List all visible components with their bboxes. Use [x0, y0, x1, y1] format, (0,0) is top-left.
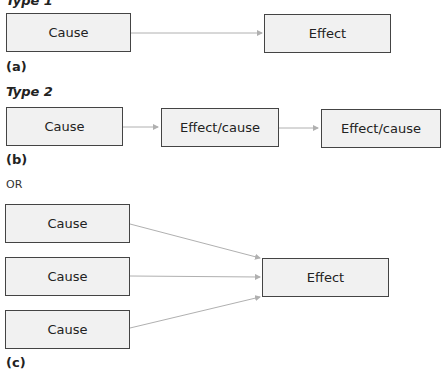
arrow-type3-1 — [130, 224, 260, 258]
arrow-type3-2 — [130, 276, 260, 277]
arrow-type3-3 — [130, 297, 260, 328]
